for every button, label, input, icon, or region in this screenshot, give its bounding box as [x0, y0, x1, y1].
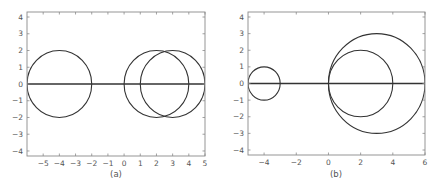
x-tick-label: 1 [138, 159, 143, 168]
x-tick-label: −5 [38, 159, 49, 168]
x-tick-label: −2 [291, 158, 302, 167]
x-tick-label: −2 [86, 159, 97, 168]
x-tick-label: 2 [154, 159, 159, 168]
panel-b-plot: −4−20246−4−3−2−101234 [233, 12, 428, 167]
y-tick-label: −4 [12, 147, 23, 156]
x-tick-label: 3 [170, 159, 175, 168]
x-tick-label: 4 [390, 158, 395, 167]
y-tick-label: 1 [239, 62, 244, 71]
panel-b-caption: (b) [330, 169, 342, 179]
y-tick-label: 3 [18, 29, 23, 38]
y-tick-label: 2 [239, 46, 244, 55]
y-tick-label: −1 [12, 96, 23, 105]
panel-a-plot: −5−4−3−2−1012345−4−3−2−101234 [12, 12, 208, 168]
y-tick-label: 4 [18, 13, 23, 22]
y-tick-label: −3 [12, 130, 23, 139]
x-tick-label: 6 [423, 158, 428, 167]
y-tick-label: 1 [18, 63, 23, 72]
x-tick-label: 4 [186, 159, 191, 168]
y-tick-label: 3 [239, 29, 244, 38]
x-tick-label: 0 [122, 159, 127, 168]
y-tick-label: −3 [233, 129, 244, 138]
y-tick-label: 0 [18, 80, 23, 89]
x-tick-label: −4 [54, 159, 65, 168]
y-tick-label: 4 [239, 13, 244, 22]
y-tick-label: 0 [239, 79, 244, 88]
y-tick-label: −4 [233, 146, 244, 155]
figure: −5−4−3−2−1012345−4−3−2−101234 −4−20246−4… [0, 0, 444, 186]
plot-area [248, 34, 425, 134]
x-tick-label: 5 [203, 159, 208, 168]
x-tick-label: 0 [326, 158, 331, 167]
y-tick-label: −2 [12, 113, 23, 122]
panel-a-caption: (a) [110, 169, 122, 179]
x-tick-label: −4 [259, 158, 270, 167]
x-tick-label: −1 [102, 159, 113, 168]
y-tick-label: −1 [233, 96, 244, 105]
y-tick-label: −2 [233, 112, 244, 121]
plot-area [27, 51, 205, 118]
x-tick-label: −3 [70, 159, 81, 168]
x-tick-label: 2 [358, 158, 363, 167]
y-tick-label: 2 [18, 46, 23, 55]
